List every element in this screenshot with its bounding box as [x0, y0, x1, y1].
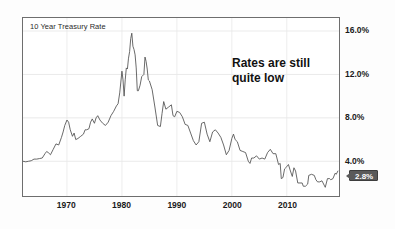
chart-title: 10 Year Treasury Rate — [30, 22, 106, 31]
y-tick-label: 12.0% — [345, 69, 369, 79]
x-tick-label: 1970 — [57, 200, 76, 210]
y-tick-label: 4.0% — [345, 156, 364, 166]
y-tick-label: 16.0% — [345, 25, 369, 35]
chart-figure: 10 Year Treasury Rate Rates are still qu… — [0, 0, 395, 229]
last-value-badge: 2.8% — [349, 170, 378, 181]
plot-area — [22, 17, 340, 197]
x-tick-label: 2000 — [223, 200, 242, 210]
y-tick-label: 8.0% — [345, 112, 364, 122]
x-tick-label: 1990 — [167, 200, 186, 210]
annotation-line-2: quite low — [232, 71, 310, 86]
annotation-line-1: Rates are still — [232, 56, 310, 71]
treasury-rate-line — [23, 18, 339, 196]
x-tick-label: 1980 — [112, 200, 131, 210]
annotation-rates-still-low: Rates are still quite low — [232, 56, 310, 85]
x-tick-label: 2010 — [278, 200, 297, 210]
